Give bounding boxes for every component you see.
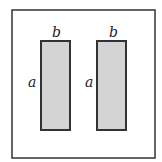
right-rect-side-label: a xyxy=(85,74,93,90)
right-rect-top-label: b xyxy=(109,24,118,40)
left-rect-side-label: a xyxy=(28,74,36,90)
diagram: b a b a xyxy=(0,0,162,162)
right-rectangle xyxy=(97,41,126,130)
left-rectangle xyxy=(41,41,70,130)
left-rect-top-label: b xyxy=(52,24,61,40)
